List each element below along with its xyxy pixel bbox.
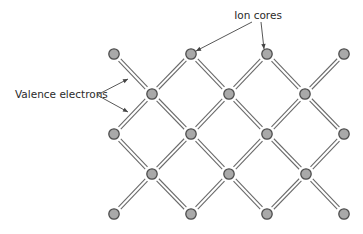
bond-line <box>118 99 145 127</box>
ion-core-node <box>339 129 349 139</box>
bond-line <box>236 179 263 207</box>
bond-line <box>121 101 148 129</box>
bond-line <box>312 99 340 127</box>
bond-line <box>198 101 225 129</box>
bond-line <box>195 99 222 127</box>
bond-line <box>195 61 222 89</box>
bond-line <box>274 181 302 209</box>
bond-line <box>159 179 187 207</box>
bond-line <box>233 101 260 129</box>
bond-line <box>121 181 148 209</box>
ion-core-node <box>339 209 349 219</box>
ion-core-node <box>262 129 272 139</box>
bond-line <box>271 99 298 127</box>
bond-line <box>159 141 187 169</box>
bond-line <box>312 61 340 89</box>
arrowhead-icon <box>261 44 265 49</box>
bond-line <box>195 179 222 207</box>
bond-line <box>157 59 185 87</box>
bond-line <box>118 179 145 207</box>
bond-line <box>157 139 185 167</box>
bond-line <box>236 61 263 89</box>
bond-line <box>198 181 225 209</box>
ion-core-node <box>186 129 196 139</box>
ion-core-node <box>109 209 119 219</box>
bond-line <box>198 139 225 167</box>
bond-line <box>310 139 337 167</box>
bond-line <box>274 59 301 87</box>
ion-core-node <box>186 49 196 59</box>
bond-line <box>313 179 340 207</box>
ion-core-node <box>224 89 234 99</box>
bond-line <box>236 99 263 127</box>
bond-line <box>157 101 185 129</box>
bond-line <box>271 61 298 89</box>
bond-line <box>272 141 300 169</box>
ion-cores-pointer <box>196 22 252 51</box>
bond-line <box>310 59 338 87</box>
bond-line <box>272 179 300 207</box>
bond-line <box>274 139 302 167</box>
bond-line <box>159 61 187 89</box>
valence-electrons-pointer <box>97 79 128 95</box>
ion-core-node <box>262 49 272 59</box>
ion-core-node <box>186 209 196 219</box>
bond-line <box>118 61 145 89</box>
ion-core-node <box>262 209 272 219</box>
ion-core-node <box>301 169 311 179</box>
bond-line <box>233 59 260 87</box>
ion-cores <box>109 49 349 219</box>
bond-line <box>157 181 185 209</box>
ion-core-node <box>300 89 310 99</box>
ion-core-node <box>109 49 119 59</box>
ion-cores-label: Ion cores <box>234 9 282 21</box>
ion-core-node <box>224 169 234 179</box>
valence-electron-bonds <box>118 59 339 209</box>
bond-line <box>198 59 225 87</box>
ion-core-node <box>339 49 349 59</box>
ion-core-node <box>147 89 157 99</box>
bond-line <box>195 141 222 169</box>
bond-line <box>121 139 148 167</box>
bond-line <box>310 101 338 129</box>
bond-line <box>313 141 340 169</box>
ion-lattice-diagram: Ion cores Valence electrons <box>0 0 363 234</box>
bond-line <box>274 101 301 129</box>
valence-electrons-label: Valence electrons <box>15 88 108 100</box>
valence-electrons-pointer <box>97 95 128 112</box>
ion-core-node <box>109 129 119 139</box>
bond-line <box>236 141 263 169</box>
bond-line <box>159 99 187 127</box>
bond-line <box>310 181 337 209</box>
bond-line <box>233 139 260 167</box>
ion-core-node <box>147 169 157 179</box>
bond-line <box>233 181 260 209</box>
bond-line <box>118 141 145 169</box>
